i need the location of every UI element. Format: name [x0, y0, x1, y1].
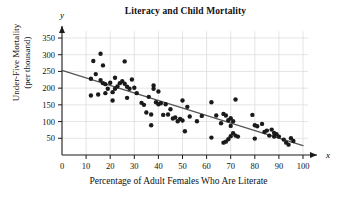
y-axis-variable-label: y — [59, 10, 64, 20]
data-point — [209, 135, 213, 139]
data-point — [183, 129, 187, 133]
data-point — [89, 77, 93, 81]
data-point — [106, 87, 110, 91]
data-point — [219, 121, 223, 125]
data-point — [286, 142, 290, 146]
data-point — [260, 122, 264, 126]
data-point — [89, 93, 93, 97]
x-tick-label: 90 — [275, 161, 284, 171]
data-point — [185, 105, 189, 109]
data-point — [98, 52, 102, 56]
data-point — [91, 59, 95, 63]
y-axis-ticks: 50100150200250300350 — [42, 33, 62, 143]
data-point — [236, 134, 240, 138]
chart-figure: Literacy and Child Mortality Under-Five … — [0, 0, 341, 202]
data-point — [224, 113, 228, 117]
data-point — [130, 77, 134, 81]
data-point — [151, 87, 155, 91]
y-axis-arrowhead — [59, 26, 65, 33]
data-point — [96, 92, 100, 96]
x-tick-label: 10 — [82, 161, 91, 171]
x-tick-label: 80 — [251, 161, 260, 171]
y-tick-label: 150 — [42, 100, 55, 110]
data-point — [253, 136, 257, 140]
data-point — [180, 118, 184, 122]
y-tick-label: 50 — [47, 133, 56, 143]
data-point — [168, 107, 172, 111]
x-tick-label: 20 — [106, 161, 115, 171]
data-point — [127, 87, 131, 91]
data-point — [291, 139, 295, 143]
x-tick-label: 50 — [178, 161, 187, 171]
data-point — [229, 124, 233, 128]
data-point — [188, 114, 192, 118]
data-points — [89, 52, 296, 147]
data-point — [195, 119, 199, 123]
x-axis-ticks: 0102030405060708090100 — [60, 155, 310, 171]
data-point — [200, 114, 204, 118]
data-point — [142, 103, 146, 107]
data-point — [267, 133, 271, 137]
x-axis-arrowhead — [310, 152, 317, 158]
y-tick-label: 100 — [42, 117, 55, 127]
data-point — [122, 59, 126, 63]
data-point — [231, 119, 235, 123]
x-tick-label: 100 — [297, 161, 310, 171]
data-point — [135, 91, 139, 95]
x-tick-label: 0 — [60, 161, 64, 171]
scatter-plot: 0102030405060708090100 50100150200250300… — [0, 0, 341, 202]
x-tick-label: 70 — [226, 161, 235, 171]
data-point — [132, 86, 136, 90]
x-tick-label: 30 — [130, 161, 139, 171]
data-point — [159, 101, 163, 105]
data-point — [209, 100, 213, 104]
data-point — [156, 89, 160, 93]
data-point — [173, 115, 177, 119]
x-axis-variable-label: x — [325, 150, 330, 160]
data-point — [144, 110, 148, 114]
data-point — [149, 123, 153, 127]
data-point — [277, 134, 281, 138]
data-point — [110, 98, 114, 102]
y-tick-label: 300 — [42, 50, 55, 60]
x-tick-label: 40 — [154, 161, 163, 171]
data-point — [265, 128, 269, 132]
data-point — [108, 81, 112, 85]
y-tick-label: 250 — [42, 66, 55, 76]
data-point — [94, 72, 98, 76]
data-point — [147, 95, 151, 99]
x-tick-label: 60 — [202, 161, 211, 171]
data-point — [180, 98, 184, 102]
data-point — [214, 113, 218, 117]
data-point — [166, 112, 170, 116]
data-point — [233, 97, 237, 101]
data-point — [250, 113, 254, 117]
data-point — [255, 124, 259, 128]
data-point — [103, 91, 107, 95]
data-point — [161, 113, 165, 117]
y-tick-label: 200 — [42, 83, 55, 93]
data-point — [101, 63, 105, 67]
data-point — [113, 76, 117, 80]
data-point — [103, 82, 107, 86]
data-point — [163, 102, 167, 106]
y-tick-label: 350 — [42, 33, 55, 43]
data-point — [149, 112, 153, 116]
data-point — [125, 96, 129, 100]
